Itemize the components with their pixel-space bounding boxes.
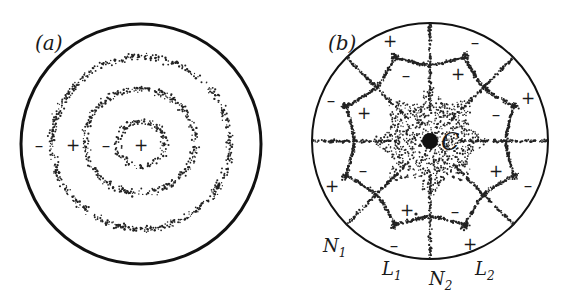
plus-sign: + (134, 135, 148, 155)
panel-a: (a) –+–+ (21, 24, 261, 264)
minus-sign: – (102, 135, 111, 155)
panel-a-label: (a) (35, 31, 63, 55)
plus-sign: + (489, 161, 503, 181)
minus-sign: – (390, 235, 399, 255)
figure: (a) –+–+ (b) C +––+–++––++–+––+ N1L1N2L2 (0, 0, 566, 305)
center-dot (422, 133, 438, 149)
node-label-n2: N2 (428, 268, 452, 293)
plus-sign: + (357, 103, 371, 123)
minus-sign: – (359, 160, 368, 180)
plus-sign: + (463, 234, 477, 254)
plus-sign: + (451, 64, 465, 84)
center-label: C (441, 128, 459, 156)
minus-sign: – (524, 175, 533, 195)
minus-sign: – (327, 90, 336, 110)
panel-b: (b) C +––+–++––++–+––+ N1L1N2L2 (312, 23, 548, 293)
plus-sign: + (400, 200, 414, 220)
minus-sign: – (451, 201, 460, 221)
minus-sign: – (35, 135, 44, 155)
plus-sign: + (521, 88, 535, 108)
minus-sign: – (402, 65, 411, 85)
node-label-n1: N1 (322, 235, 346, 260)
plus-sign: + (66, 135, 80, 155)
node-label-l1: L1 (381, 258, 402, 283)
minus-sign: – (471, 32, 480, 52)
plus-sign: + (383, 31, 397, 51)
plus-sign: + (325, 176, 339, 196)
node-label-l2: L2 (474, 258, 495, 283)
minus-sign: – (492, 104, 501, 124)
